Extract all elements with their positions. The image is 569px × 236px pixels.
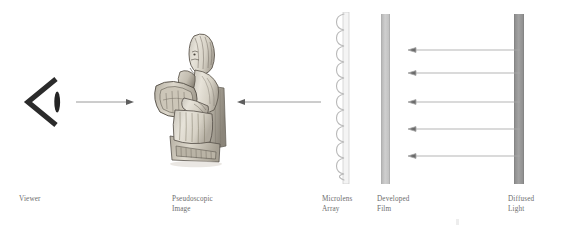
scan-artifact — [456, 219, 459, 225]
seated-chess-figure-icon — [150, 28, 232, 170]
microlens-array-icon — [325, 12, 351, 184]
light-ray — [408, 48, 520, 53]
developed-film-bar — [381, 14, 390, 184]
label-pseudoscopic-image: Pseudoscopic Image — [172, 195, 213, 214]
light-ray — [408, 154, 520, 159]
light-ray — [408, 127, 520, 132]
label-developed-film: Developed Film — [377, 195, 409, 214]
light-ray — [408, 100, 520, 105]
arrow-viewer-to-image-icon — [76, 96, 134, 108]
label-viewer: Viewer — [19, 195, 41, 205]
integral-imaging-diagram: Viewer Pseudoscopic Image Microlens Arra… — [0, 0, 569, 236]
light-ray — [408, 71, 520, 76]
label-microlens-array: Microlens Array — [322, 195, 353, 214]
arrow-array-to-image-icon — [237, 96, 321, 108]
label-diffused-light: Diffused Light — [508, 195, 534, 214]
viewer-eye-chevron-icon — [22, 76, 68, 128]
light-ray-bundle — [408, 40, 520, 170]
